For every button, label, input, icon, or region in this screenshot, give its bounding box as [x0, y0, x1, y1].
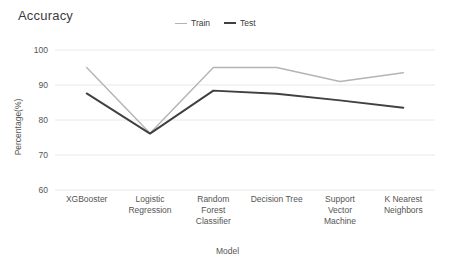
x-tick-label-line: Forest	[182, 205, 245, 216]
x-tick-label: LogisticRegression	[118, 194, 181, 227]
x-tick-label-line: Neighbors	[372, 205, 435, 216]
y-tick-label: 60	[18, 185, 48, 195]
x-axis-title: Model	[0, 246, 455, 256]
x-tick-label: SupportVectorMachine	[308, 194, 371, 227]
x-tick-label-line: Vector	[308, 205, 371, 216]
x-tick-label: K NearestNeighbors	[372, 194, 435, 227]
series-line-test[interactable]	[87, 91, 404, 134]
accuracy-line-chart: Accuracy Train Test 60708090100 Percenta…	[0, 0, 455, 266]
x-tick-label: Decision Tree	[245, 194, 308, 227]
series-lines	[87, 68, 404, 134]
x-tick-label: RandomForestClassifier	[182, 194, 245, 227]
y-axis-title: Percentage(%)	[13, 87, 23, 167]
x-axis-ticks: XGBoosterLogisticRegressionRandomForestC…	[55, 194, 435, 227]
y-tick-label: 100	[18, 45, 48, 55]
x-tick-label-line: K Nearest	[372, 194, 435, 205]
x-tick-label-line: Support	[308, 194, 371, 205]
x-tick-label-line: XGBooster	[55, 194, 118, 205]
x-tick-label: XGBooster	[55, 194, 118, 227]
x-tick-label-line: Logistic	[118, 194, 181, 205]
x-tick-label-line: Random	[182, 194, 245, 205]
x-tick-label-line: Decision Tree	[245, 194, 308, 205]
gridlines	[55, 50, 435, 190]
x-tick-label-line: Regression	[118, 205, 181, 216]
x-tick-label-line: Classifier	[182, 216, 245, 227]
x-tick-label-line: Machine	[308, 216, 371, 227]
